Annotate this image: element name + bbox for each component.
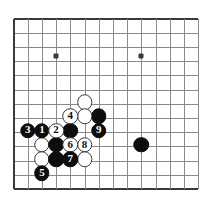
stone-white-a: [77, 95, 93, 111]
move-number-label: 7: [68, 153, 74, 164]
stone-black-c: [48, 137, 64, 153]
grid-line-vertical-8: [127, 19, 128, 189]
move-number-label: 8: [82, 139, 88, 150]
stone-black-b: [63, 123, 79, 139]
grid-line-vertical-9: [141, 19, 142, 189]
star-point-1: [139, 54, 144, 59]
move-number-label: 6: [68, 139, 74, 150]
move-number-label: 3: [25, 125, 31, 136]
stone-white-b: [77, 109, 93, 125]
stone-black-1: 1: [34, 123, 50, 139]
stone-black-a: [91, 109, 107, 125]
stone-white-4: 4: [63, 109, 79, 125]
move-number-label: 9: [96, 125, 102, 136]
stone-white-d: [34, 151, 50, 167]
move-number-label: 2: [53, 125, 59, 136]
grid-line-vertical-1: [28, 19, 29, 189]
stone-white-c: [34, 137, 50, 153]
grid-line-vertical-0: [13, 19, 15, 189]
stone-white-6: 6: [63, 137, 79, 153]
go-board-diagram: 431296875: [0, 0, 206, 202]
stone-black-5: 5: [34, 166, 50, 182]
grid-line-vertical-13: [198, 19, 199, 189]
grid-line-vertical-6: [99, 19, 100, 189]
grid-line-vertical-7: [113, 19, 114, 189]
grid-line-vertical-11: [170, 19, 171, 189]
move-number-label: 5: [39, 167, 45, 178]
stone-black-9: 9: [91, 123, 107, 139]
move-number-label: 1: [39, 125, 45, 136]
grid-line-vertical-10: [156, 19, 157, 189]
stone-white-2: 2: [48, 123, 64, 139]
stone-white-e: [77, 151, 93, 167]
stone-black-7: 7: [63, 151, 79, 167]
move-number-label: 4: [68, 110, 74, 121]
stone-white-8: 8: [77, 137, 93, 153]
grid-line-vertical-12: [184, 19, 185, 189]
star-point-0: [54, 54, 59, 59]
stone-black-e: [134, 137, 150, 153]
stone-black-d: [48, 151, 64, 167]
stone-black-3: 3: [20, 123, 36, 139]
